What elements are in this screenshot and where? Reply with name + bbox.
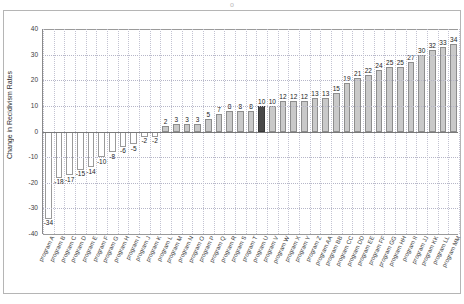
gridline-x-32 <box>384 29 385 234</box>
gridline-x-9 <box>139 29 140 234</box>
bar <box>312 98 319 131</box>
gridline-x-26 <box>320 29 321 234</box>
plot-area: -34-18-17-15-14-10-8-6-5-2-2233357888101… <box>42 29 458 234</box>
bar <box>258 106 265 132</box>
y-tick-label: 10 <box>4 102 38 109</box>
gridline-x-31 <box>374 29 375 234</box>
gridline-x-6 <box>107 29 108 234</box>
gridline-x-16 <box>214 29 215 234</box>
gridline-x-8 <box>128 29 129 234</box>
bar <box>450 44 457 131</box>
bar <box>269 106 276 132</box>
gridline-x-4 <box>86 29 87 234</box>
bar <box>226 111 233 132</box>
gridline-x-18 <box>235 29 236 234</box>
gridline-x-11 <box>160 29 161 234</box>
gridline-x-20 <box>256 29 257 234</box>
gridline-x-14 <box>192 29 193 234</box>
gridline-x-27 <box>331 29 332 234</box>
bar <box>237 111 244 132</box>
bar <box>397 67 404 131</box>
gridline-x-36 <box>427 29 428 234</box>
gridline-x-38 <box>448 29 449 234</box>
bar <box>429 50 436 132</box>
y-tick-label: 0 <box>4 128 38 135</box>
bar <box>173 124 180 132</box>
y-tick-label: -30 <box>4 204 38 211</box>
chart-frame: Change in Recidivism Rates -34-18-17-15-… <box>3 10 461 294</box>
chart-title-cropped: o <box>0 0 464 9</box>
bar <box>344 83 351 132</box>
gridline-x-22 <box>278 29 279 234</box>
y-tick-label: 20 <box>4 76 38 83</box>
gridline-x-5 <box>96 29 97 234</box>
bar <box>408 62 415 131</box>
gridline-x-13 <box>182 29 183 234</box>
bar <box>354 78 361 132</box>
bar <box>365 75 372 131</box>
gridline-x-39 <box>459 29 460 234</box>
y-axis-label: Change in Recidivism Rates <box>6 71 17 159</box>
bar <box>184 124 191 132</box>
bar <box>248 111 255 132</box>
bar <box>322 98 329 131</box>
y-tick-label: -20 <box>4 179 38 186</box>
gridline-x-1 <box>54 29 55 234</box>
bar <box>66 132 73 176</box>
y-tick-label: 40 <box>4 25 38 32</box>
gridline-x-30 <box>363 29 364 234</box>
x-axis-labels: program Aprogram Bprogram Cprogram Dprog… <box>42 235 458 304</box>
gridline-x-17 <box>224 29 225 234</box>
bar <box>376 70 383 132</box>
bar <box>56 132 63 178</box>
gridline-x-34 <box>406 29 407 234</box>
gridline-x-0 <box>43 29 44 234</box>
gridline-x-28 <box>342 29 343 234</box>
bar <box>418 55 425 132</box>
y-tick-label: 30 <box>4 51 38 58</box>
bar <box>333 93 340 131</box>
gridline-x-15 <box>203 29 204 234</box>
gridline-x-10 <box>150 29 151 234</box>
gridline-x-7 <box>118 29 119 234</box>
gridline-x-23 <box>288 29 289 234</box>
gridline-x-29 <box>352 29 353 234</box>
gridline-x-35 <box>416 29 417 234</box>
gridline-x-2 <box>64 29 65 234</box>
y-tick-label: -40 <box>4 230 38 237</box>
gridline-x-25 <box>310 29 311 234</box>
bar <box>45 132 52 219</box>
bar <box>440 47 447 132</box>
bar <box>194 124 201 132</box>
gridline-x-33 <box>395 29 396 234</box>
chart-page: o Change in Recidivism Rates -34-18-17-1… <box>0 0 464 304</box>
gridline-x-12 <box>171 29 172 234</box>
gridline-x-19 <box>246 29 247 234</box>
bar <box>216 114 223 132</box>
y-tick-label: -10 <box>4 153 38 160</box>
bar <box>386 67 393 131</box>
bar <box>205 119 212 132</box>
gridline-x-21 <box>267 29 268 234</box>
gridline-x-37 <box>438 29 439 234</box>
bar <box>77 132 84 170</box>
gridline-x-24 <box>299 29 300 234</box>
gridline-x-3 <box>75 29 76 234</box>
